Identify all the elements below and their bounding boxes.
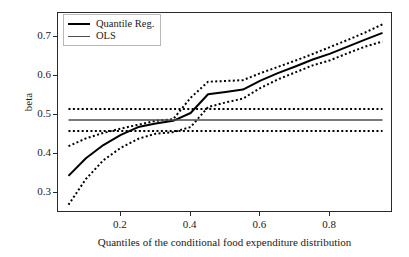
chart-legend: Quantile Reg.OLS: [63, 14, 161, 46]
x-tick-label: 0.8: [309, 218, 349, 230]
y-tick-label: 0.5: [18, 107, 51, 119]
x-tick-mark: [120, 212, 121, 216]
legend-line-icon: [68, 23, 90, 25]
y-tick-label: 0.6: [18, 68, 51, 80]
x-axis-label: Quantiles of the conditional food expend…: [57, 236, 392, 248]
y-tick-label: 0.4: [18, 146, 51, 158]
legend-label: Quantile Reg.: [96, 18, 154, 30]
x-tick-mark: [329, 212, 330, 216]
series-quantile-reg: [68, 33, 382, 176]
x-tick-label: 0.4: [170, 218, 210, 230]
legend-item: Quantile Reg.: [68, 18, 154, 30]
series-quantile-reg-lower-ci: [68, 42, 382, 205]
chart-figure: beta 0.30.40.50.60.7 0.20.40.60.8 Quanti…: [0, 0, 409, 257]
legend-item: OLS: [68, 30, 154, 42]
y-tick-label: 0.3: [18, 185, 51, 197]
x-tick-mark: [259, 212, 260, 216]
x-tick-label: 0.2: [100, 218, 140, 230]
x-tick-label: 0.6: [239, 218, 279, 230]
legend-label: OLS: [96, 30, 116, 42]
y-axis-label: beta: [22, 72, 34, 132]
y-tick-label: 0.7: [18, 29, 51, 41]
x-tick-mark: [190, 212, 191, 216]
legend-line-icon: [68, 36, 90, 37]
